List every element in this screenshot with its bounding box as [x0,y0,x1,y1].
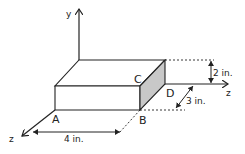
z-axis-right-label: z [226,88,231,98]
point-C-label: C [134,73,142,86]
box-front-face [55,86,140,110]
box-diagram: 2 in. 3 in. 4 in. y z z A B C D [0,0,245,154]
point-A-label: A [52,113,60,126]
z-axis-front-label: z [9,134,14,144]
point-D-label: D [166,87,174,100]
dimension-length-label: 4 in. [64,134,84,144]
point-B-label: B [139,114,147,127]
dimension-height-label: 2 in. [213,68,233,78]
dimension-depth-label: 3 in. [186,96,206,106]
extension-B-down [120,110,140,132]
y-axis-label: y [66,9,72,19]
